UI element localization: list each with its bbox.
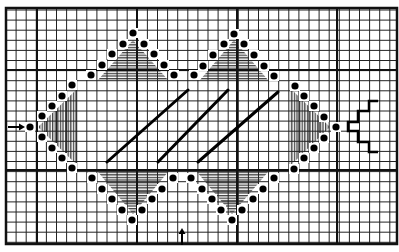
stitch-dot xyxy=(129,29,136,36)
stitch-dot xyxy=(190,71,197,78)
stitch-dot xyxy=(108,195,115,202)
stitch-dot xyxy=(260,62,267,69)
stitch-dot xyxy=(300,92,307,99)
stitch-dot xyxy=(217,206,224,213)
stitch-dot xyxy=(87,71,94,78)
stitch-chart xyxy=(0,0,399,252)
stitch-dot xyxy=(108,50,115,57)
stitch-dot xyxy=(199,62,206,69)
stitch-dot xyxy=(58,154,65,161)
stitch-dot xyxy=(270,72,277,79)
stitch-dot xyxy=(300,154,307,161)
stitch-dot xyxy=(310,144,317,151)
stitch-dot xyxy=(220,40,227,47)
stitch-dot xyxy=(332,123,339,130)
stitch-dot xyxy=(249,195,256,202)
stitch-dot xyxy=(169,174,176,181)
stitch-dot xyxy=(118,206,125,213)
stitch-dot xyxy=(150,50,157,57)
stitch-dot xyxy=(68,164,75,171)
stitch-dot xyxy=(38,133,45,140)
stitch-dot xyxy=(238,206,245,213)
stitch-dot xyxy=(160,61,167,68)
stitch-dot xyxy=(290,165,297,172)
stitch-dot xyxy=(98,185,105,192)
stitch-dot xyxy=(148,195,155,202)
stitch-dot xyxy=(26,123,33,130)
stitch-dot xyxy=(209,51,216,58)
stitch-dot xyxy=(198,185,205,192)
stitch-dot xyxy=(140,40,147,47)
stitch-dot xyxy=(48,144,55,151)
stitch-dot xyxy=(119,40,126,47)
stitch-dot xyxy=(291,82,298,89)
stitch-dot xyxy=(240,40,247,47)
stitch-dot xyxy=(187,174,194,181)
stitch-dot xyxy=(68,81,75,88)
stitch-dot xyxy=(88,174,95,181)
stitch-dot xyxy=(320,134,327,141)
stitch-dot xyxy=(208,195,215,202)
stitch-dot xyxy=(138,206,145,213)
stitch-dot xyxy=(259,185,266,192)
stitch-dot xyxy=(250,51,257,58)
stitch-dot xyxy=(320,113,327,120)
stitch-dot xyxy=(128,216,135,223)
stitch-dot xyxy=(158,185,165,192)
stitch-dot xyxy=(58,92,65,99)
stitch-dot xyxy=(38,112,45,119)
stitch-dot xyxy=(170,71,177,78)
stitch-dot xyxy=(48,102,55,109)
stitch-dot xyxy=(230,30,237,37)
stitch-dot xyxy=(228,216,235,223)
stitch-dot xyxy=(270,174,277,181)
stitch-dot xyxy=(310,102,317,109)
stitch-dot xyxy=(98,61,105,68)
